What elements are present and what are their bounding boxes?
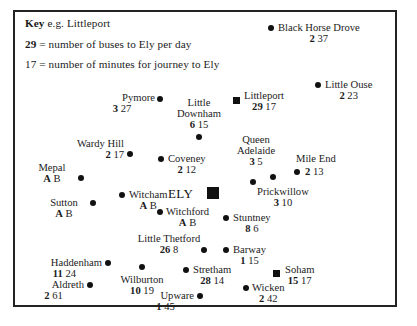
place-values: 3 10 xyxy=(257,197,309,208)
key-minutes-value: 17 xyxy=(25,58,36,70)
place-buses: 15 xyxy=(288,275,299,286)
place-values: 29 17 xyxy=(244,101,284,112)
place-buses: 11 xyxy=(53,268,63,279)
place-minutes: 13 xyxy=(313,166,324,177)
marker-sutton xyxy=(90,200,96,206)
key-example-prefix: e.g. xyxy=(47,17,64,29)
place-label-queen-adelaide: Queen Adelaide 3 5 xyxy=(223,134,289,168)
place-minutes: 12 xyxy=(186,164,197,175)
place-name: Haddenham xyxy=(27,257,102,268)
marker-mepal xyxy=(78,175,84,181)
place-label-soham: Soham 15 17 xyxy=(285,264,314,286)
place-values: 2 23 xyxy=(325,90,372,101)
place-minutes: 17 xyxy=(265,101,276,112)
key-buses-value: 29 xyxy=(25,38,36,50)
key-minutes-line: 17 = number of minutes for journey to El… xyxy=(25,59,355,70)
marker-little-downham xyxy=(196,134,202,140)
place-name: Upware xyxy=(137,290,194,301)
place-label-mepal: Mepal A B xyxy=(29,162,75,184)
marker-witcham xyxy=(119,192,125,198)
place-minutes: 24 xyxy=(66,268,77,279)
marker-witchford xyxy=(157,209,163,215)
place-name: Sutton xyxy=(40,197,88,208)
place-minutes: 27 xyxy=(121,103,132,114)
place-minutes: B xyxy=(66,208,73,219)
place-label-barway: Barway 1 15 xyxy=(233,244,266,266)
place-values: 2 17 xyxy=(51,149,124,160)
place-label-upware: Upware 1 45 xyxy=(137,290,194,312)
place-label-aldreth: Aldreth 2 61 xyxy=(23,279,84,301)
place-buses: 2 xyxy=(178,164,183,175)
marker-barway xyxy=(223,247,229,253)
place-label-wardy-hill: Wardy Hill 2 17 xyxy=(51,138,124,160)
place-buses: A xyxy=(140,200,148,211)
place-values: 8 6 xyxy=(233,223,271,234)
place-name: Aldreth xyxy=(23,279,84,290)
place-buses: 1 xyxy=(240,255,245,266)
place-label-coveney: Coveney 2 12 xyxy=(168,153,206,175)
marker-mile-end xyxy=(294,169,300,175)
place-label-little-downham: Little Downham 6 15 xyxy=(172,97,226,131)
place-label-mile-end: Mile End xyxy=(296,153,336,164)
marker-wardy-hill xyxy=(127,151,133,157)
place-minutes: 37 xyxy=(318,33,329,44)
place-minutes: B xyxy=(54,173,61,184)
key-minutes-desc: = number of minutes for journey to Ely xyxy=(39,58,219,70)
place-minutes: B xyxy=(150,200,157,211)
place-minutes: 61 xyxy=(52,290,63,301)
place-label-littleport: Littleport 29 17 xyxy=(244,90,284,112)
place-buses: 8 xyxy=(245,223,250,234)
place-minutes: 23 xyxy=(347,90,358,101)
place-label-pymore: Pymore 3 27 xyxy=(89,92,155,114)
marker-little-thetford xyxy=(201,247,207,253)
marker-wicken xyxy=(243,285,249,291)
place-name: Wicken xyxy=(252,282,285,293)
place-label-sutton: Sutton A B xyxy=(40,197,88,219)
key-buses-desc: = number of buses to Ely per day xyxy=(39,38,191,50)
place-buses: A xyxy=(179,217,187,228)
place-name: Wardy Hill xyxy=(51,138,124,149)
place-minutes: 6 xyxy=(253,223,258,234)
place-name-line2: Adelaide xyxy=(223,145,289,156)
place-name: Soham xyxy=(285,264,314,275)
place-minutes: 17 xyxy=(113,149,124,160)
place-label-haddenham: Haddenham 11 24 xyxy=(27,257,102,279)
marker-ely xyxy=(207,187,219,199)
place-name: Wilburton xyxy=(110,274,174,285)
place-buses: A xyxy=(55,208,63,219)
place-label-prickwillow: Prickwillow 3 10 xyxy=(257,186,309,208)
place-values: 2 13 xyxy=(305,166,324,177)
place-label-witchford: Witchford A B xyxy=(166,206,209,228)
map-figure: Key e.g. Littleport 29 = number of buses… xyxy=(0,0,417,326)
place-buses: 26 xyxy=(160,244,171,255)
place-buses: 29 xyxy=(252,101,263,112)
marker-black-horse-drove xyxy=(268,25,274,31)
place-buses: 3 xyxy=(113,103,118,114)
place-label-witcham: Witcham A B xyxy=(129,189,167,211)
place-minutes: 5 xyxy=(257,156,262,167)
place-minutes: 8 xyxy=(173,244,178,255)
place-minutes: 42 xyxy=(267,293,278,304)
marker-upware xyxy=(197,293,203,299)
place-values: A B xyxy=(29,173,75,184)
place-minutes: 45 xyxy=(164,301,175,312)
place-minutes: 14 xyxy=(213,275,224,286)
place-label-little-thetford: Little Thetford 26 8 xyxy=(128,233,210,255)
place-name: Witchford xyxy=(166,206,209,217)
marker-little-ouse xyxy=(315,82,321,88)
place-buses: 1 xyxy=(156,301,161,312)
place-buses: 2 xyxy=(305,166,310,177)
place-name-line2: Downham xyxy=(172,108,226,119)
marker-littleport xyxy=(233,97,240,104)
place-label-black-horse-drove: Black Horse Drove 2 37 xyxy=(278,22,360,44)
marker-queen-adelaide xyxy=(250,179,256,185)
marker-soham xyxy=(273,270,280,277)
place-name: Mile End xyxy=(296,153,336,164)
place-name-line1: Queen xyxy=(223,134,289,145)
place-values: 1 15 xyxy=(233,255,266,266)
place-label-wicken: Wicken 2 42 xyxy=(252,282,285,304)
place-buses: 3 xyxy=(274,197,279,208)
place-buses: 2 xyxy=(259,293,264,304)
center-label-ely: ELY xyxy=(168,186,193,202)
place-values: 26 8 xyxy=(128,244,210,255)
